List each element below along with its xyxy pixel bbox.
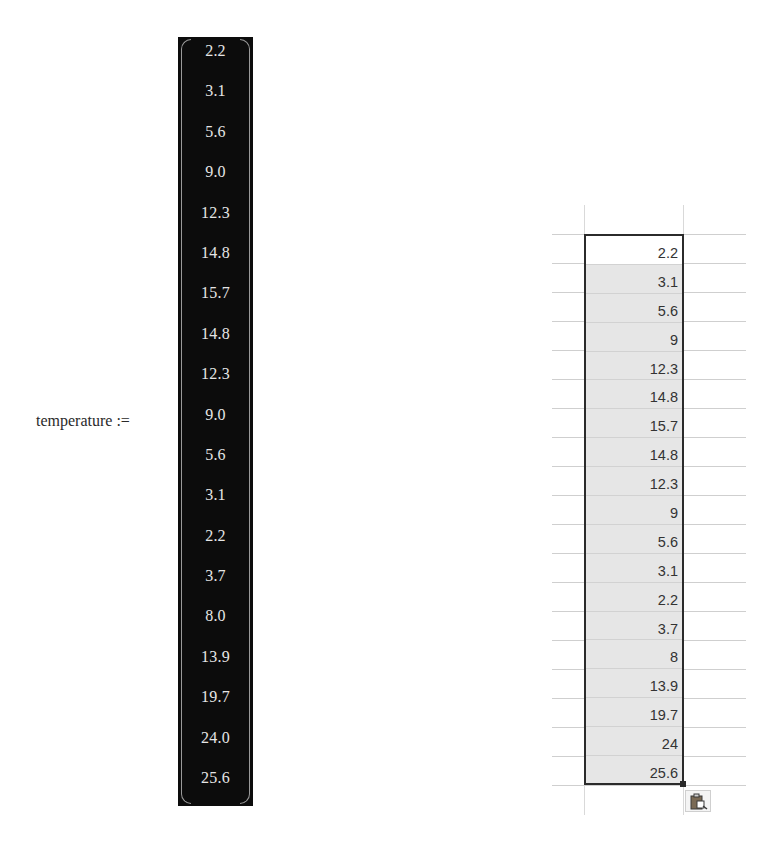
- matrix-cell[interactable]: 25.6: [178, 767, 253, 807]
- matrix-cell[interactable]: 15.7: [178, 282, 253, 322]
- matrix-cell[interactable]: 12.3: [178, 363, 253, 403]
- matrix-cell[interactable]: 3.1: [178, 80, 253, 120]
- spreadsheet-cell[interactable]: 5.6: [586, 525, 682, 554]
- spreadsheet-cell[interactable]: 9: [586, 496, 682, 525]
- spreadsheet-cell[interactable]: 8: [586, 640, 682, 669]
- spreadsheet-cell[interactable]: 2.2: [586, 583, 682, 612]
- matrix-cell[interactable]: 13.9: [178, 646, 253, 686]
- matrix-cell[interactable]: 2.2: [178, 525, 253, 565]
- spreadsheet-cell[interactable]: 12.3: [586, 467, 682, 496]
- matrix-cell[interactable]: 9.0: [178, 161, 253, 201]
- matrix-cell[interactable]: 12.3: [178, 202, 253, 242]
- spreadsheet-cell[interactable]: 12.3: [586, 352, 682, 381]
- spreadsheet-cell[interactable]: 13.9: [586, 669, 682, 698]
- spreadsheet-cell[interactable]: 19.7: [586, 698, 682, 727]
- matrix-cells: 2.2 3.1 5.6 9.0 12.3 14.8 15.7 14.8 12.3…: [178, 40, 253, 807]
- matrix-cell[interactable]: 5.6: [178, 121, 253, 161]
- row-gridline: [552, 785, 746, 786]
- temperature-matrix[interactable]: 2.2 3.1 5.6 9.0 12.3 14.8 15.7 14.8 12.3…: [178, 37, 253, 806]
- spreadsheet-cell[interactable]: 15.7: [586, 409, 682, 438]
- spreadsheet-cell[interactable]: 5.6: [586, 294, 682, 323]
- fill-handle[interactable]: [680, 781, 686, 787]
- matrix-cell[interactable]: 2.2: [178, 40, 253, 80]
- spreadsheet-cell[interactable]: 3.1: [586, 554, 682, 583]
- matrix-cell[interactable]: 9.0: [178, 404, 253, 444]
- spreadsheet-cell[interactable]: 14.8: [586, 380, 682, 409]
- assign-operator: :=: [116, 412, 129, 429]
- spreadsheet-cell[interactable]: 24: [586, 727, 682, 756]
- spreadsheet-cell[interactable]: 25.6: [586, 756, 682, 785]
- matrix-cell[interactable]: 14.8: [178, 323, 253, 363]
- matrix-cell[interactable]: 24.0: [178, 727, 253, 767]
- spreadsheet-cell[interactable]: 9: [586, 323, 682, 352]
- matrix-cell[interactable]: 8.0: [178, 605, 253, 645]
- variable-assignment-label: temperature :=: [36, 412, 130, 430]
- matrix-cell[interactable]: 5.6: [178, 444, 253, 484]
- spreadsheet-cell[interactable]: 3.7: [586, 612, 682, 641]
- spreadsheet-cell[interactable]: 3.1: [586, 265, 682, 294]
- selected-range[interactable]: 2.2 3.1 5.6 9 12.3 14.8 15.7 14.8 12.3 9…: [584, 234, 684, 785]
- paste-options-button[interactable]: [685, 790, 711, 812]
- matrix-cell[interactable]: 3.1: [178, 484, 253, 524]
- matrix-cell[interactable]: 3.7: [178, 565, 253, 605]
- matrix-cell[interactable]: 19.7: [178, 686, 253, 726]
- spreadsheet-cell[interactable]: 14.8: [586, 438, 682, 467]
- matrix-cell[interactable]: 14.8: [178, 242, 253, 282]
- active-cell[interactable]: 2.2: [586, 236, 682, 265]
- variable-name: temperature: [36, 412, 112, 429]
